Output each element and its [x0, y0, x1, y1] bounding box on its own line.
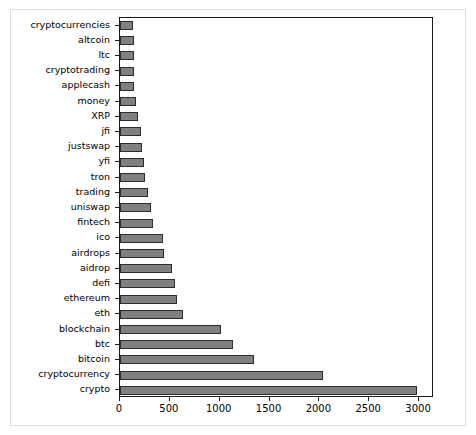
bar: [120, 355, 254, 364]
x-tick-label: 2500: [355, 403, 380, 414]
y-tick-label: yfi: [98, 156, 110, 166]
bar: [120, 127, 141, 136]
bars-layer: [120, 18, 432, 396]
y-tick-label: fintech: [77, 217, 110, 227]
bar: [120, 21, 133, 30]
bar-row: [120, 322, 432, 337]
bar-row: [120, 140, 432, 155]
y-tick-label: cryptocurrency: [38, 369, 110, 379]
bar: [120, 234, 163, 243]
y-tick-label: blockchain: [59, 324, 110, 334]
y-tick-label: btc: [95, 339, 110, 349]
x-tick-mark: [119, 397, 120, 401]
bar: [120, 386, 417, 395]
bar-row: [120, 307, 432, 322]
bar-row: [120, 216, 432, 231]
bar: [120, 82, 134, 91]
y-tick-label: defi: [92, 278, 110, 288]
bar: [120, 51, 134, 60]
x-tick-label: 1500: [256, 403, 281, 414]
x-tick-mark: [368, 397, 369, 401]
y-tick-label: aidrop: [80, 263, 110, 273]
x-tick-label: 3000: [405, 403, 430, 414]
x-tick-mark: [318, 397, 319, 401]
bar: [120, 264, 172, 273]
bar-row: [120, 155, 432, 170]
bar: [120, 97, 136, 106]
bar: [120, 279, 175, 288]
chart-figure: cryptocurrenciesaltcoinltccryptotradinga…: [0, 0, 476, 435]
x-tick-mark: [169, 397, 170, 401]
y-tick-label: uniswap: [71, 202, 110, 212]
bar-row: [120, 368, 432, 383]
bar: [120, 188, 148, 197]
bar: [120, 143, 142, 152]
y-tick-label: jfi: [101, 126, 110, 136]
bar: [120, 371, 323, 380]
bar: [120, 112, 138, 121]
bar-row: [120, 337, 432, 352]
x-tick-label: 0: [116, 403, 122, 414]
bar-row: [120, 200, 432, 215]
bar: [120, 295, 177, 304]
y-tick-label: ltc: [98, 50, 110, 60]
bar: [120, 249, 164, 258]
bar: [120, 158, 144, 167]
bar: [120, 203, 151, 212]
x-tick-mark: [219, 397, 220, 401]
bar: [120, 173, 145, 182]
bar: [120, 36, 134, 45]
y-tick-label: trading: [76, 187, 110, 197]
y-tick-label: altcoin: [78, 35, 110, 45]
x-tick-mark: [418, 397, 419, 401]
bar-row: [120, 18, 432, 33]
x-tick-label: 2000: [306, 403, 331, 414]
bar-row: [120, 79, 432, 94]
y-tick-label: crypto: [80, 384, 110, 394]
bar: [120, 340, 233, 349]
bar-row: [120, 33, 432, 48]
plot-area: [119, 17, 433, 397]
x-tick-label: 1000: [206, 403, 231, 414]
y-tick-label: cryptotrading: [46, 65, 111, 75]
bar: [120, 67, 134, 76]
x-axis: 050010001500200025003000: [119, 397, 433, 427]
y-tick-label: ico: [96, 232, 110, 242]
x-tick-label: 500: [159, 403, 178, 414]
y-tick-label: bitcoin: [78, 354, 110, 364]
y-tick-label: airdrops: [71, 248, 110, 258]
bar: [120, 219, 153, 228]
bar-row: [120, 185, 432, 200]
y-tick-label: ethereum: [64, 293, 110, 303]
bar-row: [120, 48, 432, 63]
y-tick-label: cryptocurrencies: [30, 20, 110, 30]
bar-row: [120, 124, 432, 139]
bar-row: [120, 64, 432, 79]
bar-row: [120, 170, 432, 185]
y-tick-label: justswap: [68, 141, 110, 151]
bar-row: [120, 261, 432, 276]
bar-row: [120, 292, 432, 307]
bar-row: [120, 383, 432, 398]
y-tick-label: tron: [91, 172, 110, 182]
bar: [120, 325, 221, 334]
y-tick-label: applecash: [62, 80, 110, 90]
y-tick-label: eth: [94, 308, 110, 318]
bar: [120, 310, 183, 319]
y-tick-label: XRP: [91, 111, 110, 121]
y-axis: cryptocurrenciesaltcoinltccryptotradinga…: [0, 17, 119, 397]
bar-row: [120, 109, 432, 124]
bar-row: [120, 231, 432, 246]
bar-row: [120, 352, 432, 367]
y-tick-label: money: [77, 96, 110, 106]
bar-row: [120, 246, 432, 261]
x-tick-mark: [269, 397, 270, 401]
bar-row: [120, 276, 432, 291]
bar-row: [120, 94, 432, 109]
